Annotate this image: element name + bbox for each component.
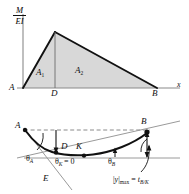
angle-label-theta-K-equals: = 0: [63, 157, 75, 166]
lower-point-label-K: K: [76, 142, 82, 151]
angle-label-theta-A-sub: A: [30, 158, 33, 164]
lower-diagram-graphics: [0, 0, 189, 194]
node-dot-K: [82, 153, 86, 157]
deflection-subscript-max: max: [120, 179, 129, 185]
figure-container: M EI A D B x A1 A2: [0, 0, 189, 194]
lower-point-label-B: B: [141, 117, 147, 126]
angle-label-theta-B: θB: [108, 158, 115, 166]
node-dot-D: [54, 150, 58, 154]
angle-label-theta-A: θA: [26, 155, 33, 163]
angle-label-theta-B-sub: B: [112, 161, 115, 167]
lower-point-label-D: D: [61, 142, 68, 151]
node-dot-A: [23, 128, 27, 132]
lower-point-label-E: E: [43, 174, 49, 183]
equals-sign: =: [129, 175, 138, 184]
angle-arc-theta-B: [141, 139, 147, 152]
tangent-line-at-K: [17, 121, 180, 158]
angle-label-theta-K-equals-zero: θK= 0: [55, 158, 75, 166]
lower-point-label-A: A: [15, 121, 21, 130]
node-dot-B: [144, 129, 149, 134]
tangential-deviation-subscript: B/K: [140, 179, 149, 185]
angle-label-theta-K-sub: K: [59, 161, 63, 167]
max-deflection-equation: |y|max=tB/K: [113, 176, 149, 184]
